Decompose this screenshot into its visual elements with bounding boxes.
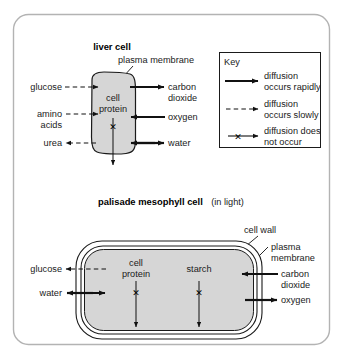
palisade-interior-label-0-line1: cell [129,258,143,268]
liver-label-urea: urea [44,138,63,148]
key-item-0-line2: occurs rapidly [264,82,321,92]
liver-label-oxygen: oxygen [168,112,198,122]
key-item-2-line2: not occur [264,137,302,147]
liver-cell-title: liver cell [93,41,131,52]
key-item-2-line1: diffusion does [264,126,321,136]
palisade-label-oxygen: oxygen [281,295,311,305]
palisade-interior-label-1-line1: starch [186,264,211,274]
liver-label-carbon-dioxide-line1: carbon [168,82,196,92]
palisade-no-diffusion-cross-icon-starch: ✕ [195,288,203,298]
palisade-label-glucose: glucose [30,264,62,274]
liver-label-glucose: glucose [30,82,62,92]
palisade-cytoplasm [85,250,254,331]
key-item-1-line1: diffusion [264,99,298,109]
palisade-label-carbon-dioxide-line2: dioxide [281,280,310,290]
liver-label-amino-line2: acids [41,120,63,130]
key-item-0-line1: diffusion [264,71,298,81]
palisade-cell-title-suffix: (in light) [211,197,244,207]
palisade-cell-title: palisade mesophyll cell [98,196,203,207]
key-item-1-line2: occurs slowly [264,110,319,120]
liver-no-diffusion-cross-icon: ✕ [109,122,117,132]
palisade-membrane-label-line2: membrane [271,253,315,263]
palisade-interior-label-0-line2: protein [122,269,150,279]
liver-label-water: water [167,138,190,148]
liver-label-amino-line1: amino [37,109,62,119]
key-icon-cross: ✕ [234,132,242,142]
liver-interior-label-line1: cell [106,93,120,103]
palisade-cell-wall-label: cell wall [244,225,276,235]
liver-plasma-membrane-label: plasma membrane [118,55,194,65]
liver-interior-label-line2: protein [99,104,127,114]
palisade-label-carbon-dioxide-line1: carbon [281,269,309,279]
liver-label-carbon-dioxide-line2: dioxide [168,93,197,103]
palisade-membrane-label-line1: plasma [271,242,302,252]
diagram-panel: liver cell plasma membrane cell protein … [0,0,341,363]
palisade-label-water: water [39,288,62,298]
key-title: Key [224,57,240,67]
palisade-no-diffusion-cross-icon-protein: ✕ [132,288,140,298]
